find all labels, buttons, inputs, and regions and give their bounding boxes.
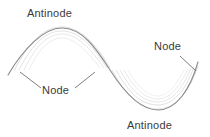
label-antinode-bottom: Antinode	[127, 119, 172, 131]
leader-line-node-left-outer	[20, 72, 41, 88]
label-node-right: Node	[154, 40, 181, 52]
leader-line-node-left-inner	[75, 72, 95, 88]
wave-illustration	[0, 0, 210, 137]
label-node-left: Node	[42, 84, 69, 96]
standing-wave-diagram: Antinode Node Node Antinode	[0, 0, 210, 137]
trough-vibration-arcs	[112, 66, 198, 109]
label-antinode-top: Antinode	[27, 7, 72, 19]
leader-line-node-right	[180, 56, 196, 71]
